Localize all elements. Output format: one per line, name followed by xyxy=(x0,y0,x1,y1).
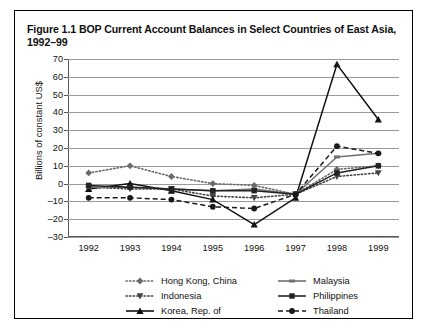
data-point-marker xyxy=(334,155,340,158)
legend-label: Indonesia xyxy=(161,291,201,301)
data-point-marker xyxy=(251,206,257,212)
x-tick-label: 1992 xyxy=(78,243,98,253)
legend-item-korea-rep-of[interactable]: Korea, Rep. of xyxy=(125,303,237,318)
legend-label: Hong Kong, China xyxy=(161,276,237,286)
data-point-marker xyxy=(289,308,295,314)
x-tick-label: 1998 xyxy=(327,243,347,253)
data-point-marker xyxy=(137,277,144,284)
data-point-marker xyxy=(127,184,132,189)
x-tick-label: 1997 xyxy=(285,243,305,253)
legend-swatch-icon xyxy=(125,305,155,317)
legend-label: Korea, Rep. of xyxy=(161,306,221,316)
legend-column-right: MalaysiaPhilippinesThailand xyxy=(277,273,358,318)
legend-label: Philippines xyxy=(313,291,358,301)
y-tick-label: 20 xyxy=(53,143,63,153)
legend-swatch-icon xyxy=(277,275,307,287)
x-tick-label: 1993 xyxy=(120,243,140,253)
legend-label: Malaysia xyxy=(313,276,350,286)
figure-title: Figure 1.1 BOP Current Account Balances … xyxy=(27,23,405,49)
y-tick-label: 50 xyxy=(53,90,63,100)
y-tick-label: 10 xyxy=(53,161,63,171)
y-tick-label: –10 xyxy=(48,196,63,206)
data-point-marker xyxy=(289,279,295,282)
chart-area: Billions of constant US$ –30–20–10010203… xyxy=(15,47,414,269)
x-tick-label: 1994 xyxy=(161,243,181,253)
legend-swatch xyxy=(125,290,155,302)
y-tick-label: 60 xyxy=(53,72,63,82)
data-point-marker xyxy=(86,183,91,188)
gridline xyxy=(68,237,399,238)
data-point-marker xyxy=(293,191,299,197)
legend-item-hong-kong-china[interactable]: Hong Kong, China xyxy=(125,273,237,288)
legend-swatch-icon xyxy=(277,305,307,317)
x-tick-label: 1996 xyxy=(244,243,264,253)
data-point-marker xyxy=(251,188,256,193)
legend-swatch-icon xyxy=(125,290,155,302)
y-tick-mark xyxy=(64,237,68,238)
y-tick-label: 0 xyxy=(58,179,63,189)
y-tick-label: 70 xyxy=(53,54,63,64)
y-tick-label: 40 xyxy=(53,107,63,117)
y-tick-label: 30 xyxy=(53,125,63,135)
data-point-marker xyxy=(289,293,294,298)
legend-swatch xyxy=(277,290,307,302)
x-tick-label: 1999 xyxy=(368,243,388,253)
legend-swatch xyxy=(277,305,307,317)
y-tick-label: –20 xyxy=(48,214,63,224)
y-axis-label: Billions of constant US$ xyxy=(33,56,44,206)
data-point-marker xyxy=(127,195,133,201)
legend-swatch xyxy=(125,275,155,287)
data-point-marker xyxy=(210,204,216,210)
series-layer xyxy=(68,59,399,237)
legend-item-indonesia[interactable]: Indonesia xyxy=(125,288,237,303)
data-point-marker xyxy=(127,162,134,169)
legend-item-malaysia[interactable]: Malaysia xyxy=(277,273,358,288)
legend-swatch-icon xyxy=(125,275,155,287)
data-point-marker xyxy=(375,150,381,156)
legend-swatch xyxy=(125,305,155,317)
legend-swatch-icon xyxy=(277,290,307,302)
legend-label: Thailand xyxy=(313,306,349,316)
data-point-marker xyxy=(210,188,215,193)
data-point-marker xyxy=(334,170,339,175)
data-point-marker xyxy=(86,195,92,201)
data-point-marker xyxy=(251,221,258,228)
data-point-marker xyxy=(334,143,340,149)
figure-container: Figure 1.1 BOP Current Account Balances … xyxy=(14,10,413,319)
chart-legend: Hong Kong, ChinaIndonesiaKorea, Rep. of … xyxy=(15,273,414,319)
plot-area: –30–20–10010203040506070 199219931994199… xyxy=(68,59,399,237)
legend-column-left: Hong Kong, ChinaIndonesiaKorea, Rep. of xyxy=(125,273,237,318)
data-point-marker xyxy=(169,186,174,191)
data-point-marker xyxy=(209,180,216,187)
x-tick-label: 1995 xyxy=(203,243,223,253)
data-point-marker xyxy=(333,61,340,68)
series-hong-kong-china xyxy=(85,162,381,197)
y-tick-label: –30 xyxy=(48,232,63,242)
legend-item-thailand[interactable]: Thailand xyxy=(277,303,358,318)
data-point-marker xyxy=(169,197,175,203)
data-point-marker xyxy=(85,170,92,177)
legend-swatch xyxy=(277,275,307,287)
legend-item-philippines[interactable]: Philippines xyxy=(277,288,358,303)
data-point-marker xyxy=(168,173,175,180)
data-point-marker xyxy=(376,163,381,168)
